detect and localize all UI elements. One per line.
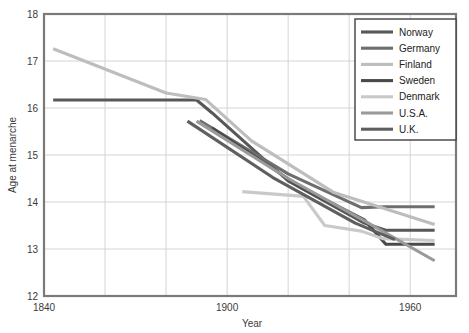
y-tick-label: 14 <box>27 197 39 208</box>
x-tick-label: 1900 <box>216 302 239 313</box>
y-tick-label: 12 <box>27 291 39 302</box>
legend-label-uk: U.K. <box>399 124 418 135</box>
y-tick-label: 17 <box>27 56 39 67</box>
menarche-age-line-chart: 12131415161718 184019001960 Year Age at … <box>0 0 469 333</box>
legend-label-norway: Norway <box>399 27 433 38</box>
x-axis-title: Year <box>242 318 263 329</box>
y-axis-title: Age at menarche <box>7 116 18 193</box>
legend-label-denmark: Denmark <box>399 91 441 102</box>
y-tick-label: 15 <box>27 150 39 161</box>
legend-label-usa: U.S.A. <box>399 108 428 119</box>
legend-label-sweden: Sweden <box>399 75 435 86</box>
x-tick-label: 1960 <box>399 302 422 313</box>
chart-legend: NorwayGermanyFinlandSwedenDenmarkU.S.A.U… <box>355 19 456 140</box>
chart-container: 12131415161718 184019001960 Year Age at … <box>0 0 469 333</box>
y-tick-label: 13 <box>27 244 39 255</box>
legend-label-germany: Germany <box>399 43 440 54</box>
y-tick-label: 18 <box>27 9 39 20</box>
y-tick-label: 16 <box>27 103 39 114</box>
legend-label-finland: Finland <box>399 59 432 70</box>
x-tick-label: 1840 <box>33 302 56 313</box>
